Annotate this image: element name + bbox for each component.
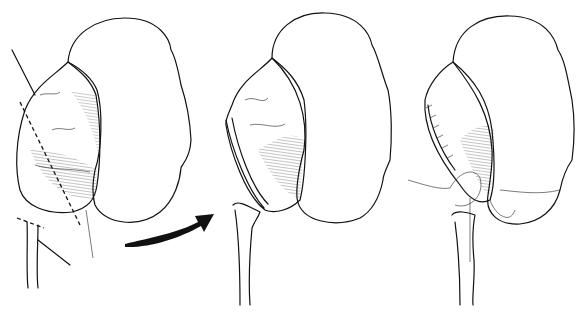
- pyeloplasty-illustration: [0, 0, 586, 313]
- spatulated-ureter-icon: [233, 203, 260, 305]
- panel-b: [408, 16, 574, 305]
- panel-middle: [226, 13, 392, 305]
- ureter-icon: [452, 212, 475, 305]
- panel-a: [12, 18, 191, 288]
- kidney-icon: [453, 16, 574, 224]
- arrow-icon: [125, 214, 214, 247]
- ureter-icon: [27, 222, 38, 288]
